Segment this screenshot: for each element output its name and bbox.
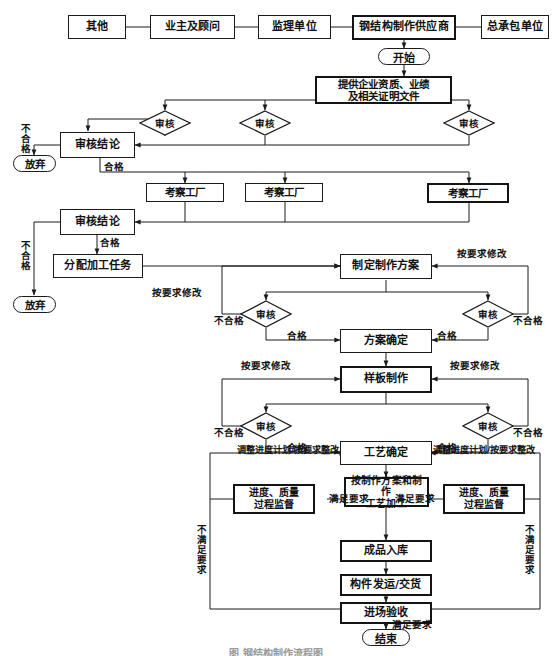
label-unqualified-plan-left: 不合格	[214, 316, 244, 326]
node-make-plan[interactable]: 制定制作方案	[340, 254, 432, 279]
node-assign-task[interactable]: 分配加工任务	[53, 254, 143, 278]
label-qualified-plan-right: 合格	[437, 331, 457, 341]
node-monitor-right[interactable]: 进度、质量 过程监督	[443, 484, 525, 514]
node-review-sample-left-label: 审核	[240, 412, 292, 440]
node-review-1-label: 审核	[139, 110, 191, 136]
label-meets-right: 满足要求	[395, 494, 435, 504]
label-modify-right-sample: 按要求修改	[450, 361, 500, 371]
node-party-other[interactable]: 其他	[68, 15, 126, 39]
node-abandon-2[interactable]: 放弃	[13, 296, 56, 313]
node-review-conclusion-2[interactable]: 审核结论	[60, 209, 135, 235]
label-qualified-2: 合格	[100, 238, 120, 248]
node-finished-storage[interactable]: 成品入库	[340, 540, 432, 562]
node-sample-making[interactable]: 样板制作	[340, 366, 432, 393]
figure-caption: 图 钢结构制作流程图	[0, 645, 552, 656]
label-unqualified-sample-right: 不合格	[513, 428, 543, 438]
label-unqualified-2: 不合格	[20, 241, 30, 271]
label-unqualified-plan-right: 不合格	[513, 316, 543, 326]
node-review-3[interactable]: 审核	[443, 110, 495, 136]
node-factory-visit-2[interactable]: 考察工厂	[245, 183, 323, 202]
label-qualified-plan-left: 合格	[287, 331, 307, 341]
node-party-owner[interactable]: 业主及顾问	[150, 15, 235, 39]
node-review-plan-right-label: 审核	[462, 300, 514, 328]
label-qualified-1: 合格	[104, 162, 124, 172]
node-review-1[interactable]: 审核	[139, 110, 191, 136]
label-modify-right-plan: 按要求修改	[457, 249, 507, 259]
node-delivery[interactable]: 构件发运/交货	[340, 574, 432, 596]
node-review-sample-right[interactable]: 审核	[462, 412, 514, 440]
node-review-3-label: 审核	[443, 110, 495, 136]
connector-lines	[0, 0, 552, 656]
node-review-plan-right[interactable]: 审核	[462, 300, 514, 328]
node-start[interactable]: 开始	[378, 48, 430, 65]
node-review-2-label: 审核	[239, 110, 291, 136]
node-end[interactable]: 结束	[362, 629, 410, 646]
node-review-sample-left[interactable]: 审核	[240, 412, 292, 440]
node-review-2[interactable]: 审核	[239, 110, 291, 136]
node-review-sample-right-label: 审核	[462, 412, 514, 440]
node-plan-confirmed[interactable]: 方案确定	[340, 329, 432, 353]
node-review-plan-left-label: 审核	[240, 300, 292, 328]
label-unqualified-sample-left: 不合格	[214, 428, 244, 438]
label-adjust-right: 调整进度计划/按要求整改	[433, 445, 535, 455]
node-factory-visit-1[interactable]: 考察工厂	[146, 183, 224, 202]
node-party-supervisor[interactable]: 监理单位	[258, 15, 331, 39]
label-adjust-left: 调整进度计划/按要求整改	[237, 445, 339, 455]
label-meets-left: 满足要求	[329, 494, 369, 504]
node-party-steel-supplier[interactable]: 钢结构制作供应商	[352, 15, 456, 40]
flowchart-canvas: 其他 业主及顾问 监理单位 钢结构制作供应商 总承包单位 开始 提供企业资质、业…	[0, 0, 552, 656]
node-party-general-contractor[interactable]: 总承包单位	[481, 15, 549, 39]
node-review-conclusion-1[interactable]: 审核结论	[60, 132, 135, 158]
label-not-meets-right: 不满足要求	[524, 525, 534, 575]
node-factory-visit-3[interactable]: 考察工厂	[427, 183, 509, 203]
node-submit-documents[interactable]: 提供企业资质、业绩 及相关证明文件	[315, 76, 452, 104]
label-not-meets-left: 不满足要求	[196, 525, 206, 575]
node-review-plan-left[interactable]: 审核	[240, 300, 292, 328]
label-unqualified-1: 不合格	[20, 124, 30, 154]
node-monitor-left[interactable]: 进度、质量 过程监督	[233, 484, 315, 514]
node-abandon-1[interactable]: 放弃	[13, 155, 56, 172]
label-modify-left-sample: 按要求修改	[241, 361, 291, 371]
label-modify-left-plan: 按要求修改	[152, 288, 202, 298]
